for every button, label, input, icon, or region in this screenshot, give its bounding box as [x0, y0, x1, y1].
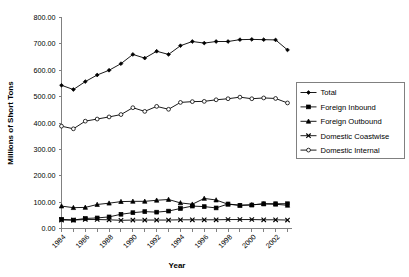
marker-circle: [119, 113, 123, 117]
marker-circle: [274, 97, 278, 101]
circle-marker: [83, 119, 87, 123]
y-tick-label: 600.00: [34, 66, 56, 75]
circle-marker: [202, 99, 206, 103]
y-tick-label: 0.00: [42, 224, 56, 233]
marker-square: [131, 211, 135, 215]
x-axis-title: Year: [169, 261, 186, 270]
marker-circle: [202, 99, 206, 103]
y-axis-title: Millions of Short Tons: [6, 81, 15, 165]
marker-circle: [214, 98, 218, 102]
marker-circle: [190, 100, 194, 104]
circle-marker: [107, 115, 111, 119]
y-tick-label: 700.00: [34, 39, 56, 48]
circle-marker: [179, 101, 183, 105]
marker-square: [307, 105, 311, 109]
marker-circle: [95, 117, 99, 121]
y-tick-label: 800.00: [34, 13, 56, 22]
legend-item-label: Foreign Inbound: [321, 103, 376, 112]
circle-marker: [190, 100, 194, 104]
circle-marker: [286, 101, 290, 105]
square-marker: [143, 210, 147, 214]
square-marker: [167, 209, 171, 213]
marker-circle: [155, 104, 159, 108]
circle-marker: [131, 106, 135, 110]
marker-circle: [307, 148, 311, 152]
marker-circle: [226, 97, 230, 101]
circle-marker: [143, 109, 147, 113]
marker-square: [214, 206, 218, 210]
y-tick-label: 300.00: [34, 145, 56, 154]
marker-square: [119, 212, 123, 216]
legend-item-label: Domestic Internal: [321, 146, 380, 155]
marker-square: [155, 210, 159, 214]
circle-marker: [262, 96, 266, 100]
y-tick-label: 400.00: [34, 119, 56, 128]
circle-marker: [274, 97, 278, 101]
marker-circle: [83, 119, 87, 123]
y-tick-label: 200.00: [34, 171, 56, 180]
marker-circle: [286, 101, 290, 105]
marker-circle: [71, 127, 75, 131]
legend-item-label: Total: [321, 88, 337, 97]
square-marker: [131, 211, 135, 215]
marker-circle: [167, 107, 171, 111]
circle-marker: [60, 124, 64, 128]
square-marker: [179, 207, 183, 211]
circle-marker: [95, 117, 99, 121]
y-tick-label: 500.00: [34, 92, 56, 101]
circle-marker: [155, 104, 159, 108]
legend-item-label: Foreign Outbound: [321, 117, 382, 126]
marker-circle: [107, 115, 111, 119]
marker-circle: [131, 106, 135, 110]
square-marker: [202, 205, 206, 209]
circle-marker: [250, 97, 254, 101]
marker-circle: [262, 96, 266, 100]
marker-square: [167, 209, 171, 213]
circle-marker: [238, 95, 242, 99]
marker-square: [179, 207, 183, 211]
circle-marker: [119, 113, 123, 117]
circle-marker: [214, 98, 218, 102]
marker-circle: [238, 95, 242, 99]
square-marker: [155, 210, 159, 214]
marker-circle: [250, 97, 254, 101]
circle-marker: [71, 127, 75, 131]
marker-circle: [143, 109, 147, 113]
square-marker: [307, 105, 311, 109]
y-tick-label: 100.00: [34, 198, 56, 207]
circle-marker: [307, 148, 311, 152]
marker-square: [202, 205, 206, 209]
chart-legend: TotalForeign InboundForeign OutboundDome…: [297, 83, 405, 159]
square-marker: [214, 206, 218, 210]
marker-square: [143, 210, 147, 214]
legend-item-label: Domestic Coastwise: [321, 132, 390, 141]
chart-container: 0.00100.00200.00300.00400.00500.00600.00…: [0, 0, 409, 277]
marker-circle: [60, 124, 64, 128]
line-chart: 0.00100.00200.00300.00400.00500.00600.00…: [0, 0, 409, 277]
marker-circle: [179, 101, 183, 105]
circle-marker: [167, 107, 171, 111]
circle-marker: [226, 97, 230, 101]
square-marker: [119, 212, 123, 216]
